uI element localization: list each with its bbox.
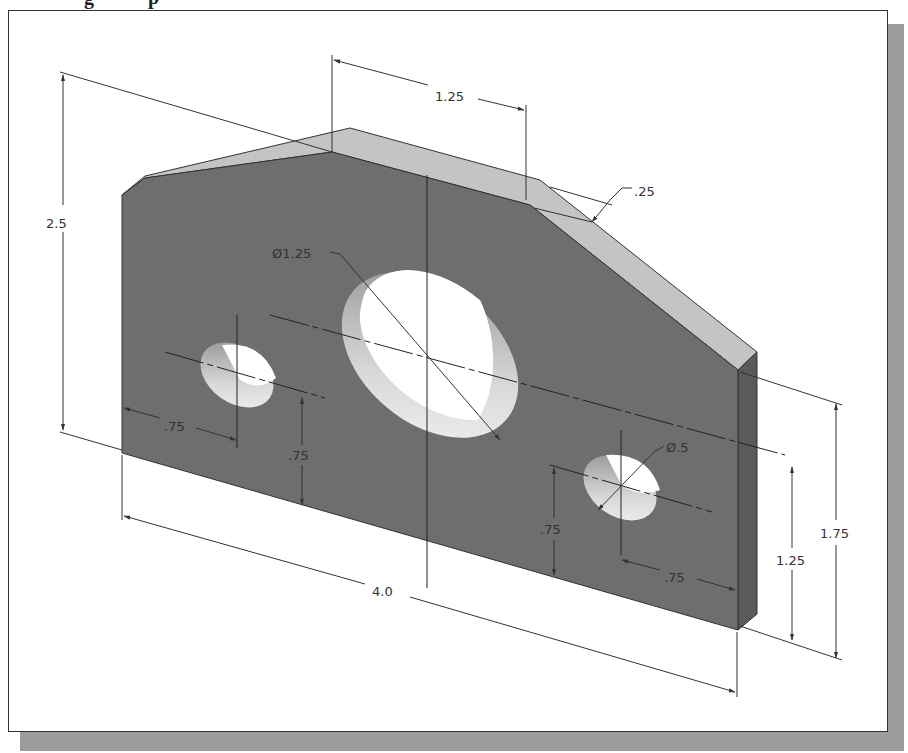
dim-label-overall-height: 2.5 xyxy=(46,216,67,231)
dim-label-right-hole-vertical: .75 xyxy=(540,522,561,537)
dim-label-top-flat: 1.25 xyxy=(435,89,464,104)
dim-label-right-hole-horizontal: .75 xyxy=(664,570,685,585)
dim-label-left-hole-horizontal: .75 xyxy=(164,419,185,434)
dim-label-small-hole-diameter: Ø.5 xyxy=(666,440,689,455)
dim-label-overall-width: 4.0 xyxy=(372,584,393,599)
dim-label-left-hole-vertical: .75 xyxy=(288,448,309,463)
right-side-face xyxy=(738,352,757,630)
part-drawing: 2.5 1.25 .25 Ø1.25 Ø.5 .75 .75 xyxy=(0,0,908,753)
dim-label-chamfer: .25 xyxy=(634,184,655,199)
dim-label-right-edge-height: 1.75 xyxy=(820,526,849,541)
dim-label-large-hole-diameter: Ø1.25 xyxy=(272,246,311,261)
dim-label-right-hole-height: 1.25 xyxy=(776,553,805,568)
